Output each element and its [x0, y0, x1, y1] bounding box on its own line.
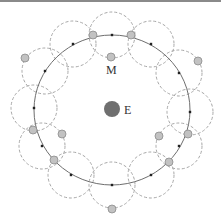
moon-icon: [50, 156, 58, 164]
epicycle-diagram: E M: [0, 0, 221, 223]
moon-label: M: [106, 63, 117, 77]
deferent-point: [72, 43, 74, 45]
deferent-point: [33, 107, 35, 109]
moon-icon: [127, 31, 135, 39]
deferent-point: [111, 34, 113, 36]
deferent-point: [111, 184, 113, 186]
deferent-point: [70, 174, 72, 176]
deferent-point: [189, 111, 191, 113]
moon-icon: [108, 205, 116, 213]
moon-icon: [21, 54, 29, 62]
moon-icon: [194, 57, 202, 65]
moon-icon: [89, 31, 97, 39]
earth-icon: [104, 101, 120, 117]
deferent-point: [178, 72, 180, 74]
deferent-point: [44, 70, 46, 72]
moon-icon: [165, 158, 173, 166]
earth-label: E: [124, 103, 131, 117]
deferent-point: [41, 145, 43, 147]
moon-icon: [58, 130, 66, 138]
moon-icon: [155, 132, 163, 140]
moon-icon: [107, 53, 115, 61]
deferent-point: [178, 145, 180, 147]
moon-icon: [29, 126, 37, 134]
moon-icon: [184, 130, 192, 138]
deferent-point: [150, 174, 152, 176]
deferent-point: [150, 43, 152, 45]
